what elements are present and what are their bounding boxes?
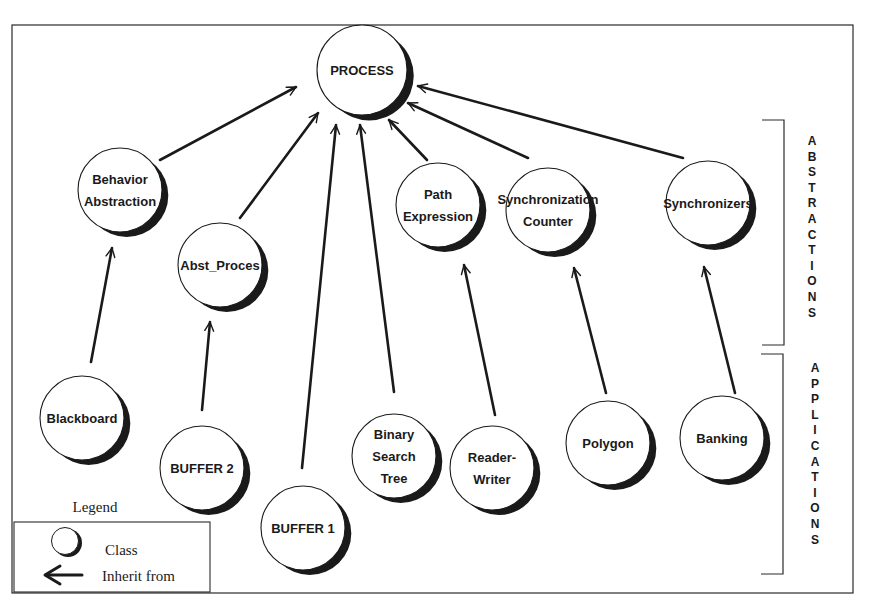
section-letter: O: [810, 501, 819, 515]
class-node-polygon: Polygon: [566, 401, 656, 490]
legend-title: Legend: [73, 499, 118, 515]
inherit-arrow-reader-writer-to-path-expression: [464, 265, 495, 415]
section-letter: B: [808, 150, 817, 164]
inherit-arrow-abst-proces-to-process: [240, 113, 318, 218]
section-letter: S: [808, 165, 816, 179]
class-label: BUFFER 2: [170, 461, 234, 476]
class-node-buffer-2: BUFFER 2: [160, 426, 250, 515]
class-node-behavior-abstraction: BehaviorAbstraction: [78, 148, 168, 237]
section-letter: T: [808, 181, 816, 195]
inherit-arrow-behavior-abstraction-to-process: [160, 87, 296, 160]
class-label: Behavior: [92, 172, 148, 187]
legend-class-label: Class: [105, 542, 138, 558]
section-label-applications: APPLICATIONS: [761, 354, 820, 574]
section-letter: S: [811, 533, 819, 547]
legend-inherit-label: Inherit from: [102, 568, 175, 584]
class-node-blackboard: Blackboard: [40, 376, 130, 465]
section-letter: O: [807, 274, 816, 288]
class-node-synchronizers: Synchronizers: [663, 161, 756, 250]
section-letter: N: [811, 517, 820, 531]
class-label: Binary: [374, 427, 415, 442]
class-node-process: PROCESS: [317, 25, 414, 120]
section-letter: N: [808, 290, 817, 304]
section-letter: I: [813, 423, 816, 437]
class-node-buffer-1: BUFFER 1: [261, 486, 351, 575]
class-label: Writer: [473, 472, 510, 487]
class-label: Banking: [696, 431, 747, 446]
diagram-frame: [12, 25, 853, 593]
legend: LegendClassInherit from: [14, 499, 210, 592]
section-letter: P: [811, 377, 819, 391]
class-nodes: PROCESSBehaviorAbstractionAbst_ProcesPat…: [40, 25, 770, 575]
class-node-binary-search-tree: BinarySearchTree: [352, 414, 442, 503]
class-node-synchronization-counter: SynchronizationCounter: [497, 168, 598, 257]
class-circle-icon: [506, 168, 590, 252]
class-node-path-expression: PathExpression: [396, 163, 486, 252]
class-label: Blackboard: [47, 411, 118, 426]
class-node-reader-writer: Reader-Writer: [450, 426, 540, 515]
class-label: Reader-: [468, 450, 516, 465]
legend-class-icon: [52, 528, 83, 558]
legend-inherit-arrow-icon: [45, 566, 82, 584]
section-letter: L: [811, 408, 818, 422]
section-letter: A: [808, 134, 817, 148]
class-label: Expression: [403, 209, 473, 224]
class-label: Abst_Proces: [180, 258, 259, 273]
section-letter: I: [813, 486, 816, 500]
class-label: PROCESS: [330, 63, 394, 78]
inherit-arrow-buffer-1-to-process: [302, 125, 336, 468]
class-label: Abstraction: [84, 194, 156, 209]
class-label: Path: [424, 187, 452, 202]
inherit-arrow-polygon-to-synchronization-counter: [574, 268, 606, 393]
class-label: Synchronization: [497, 192, 598, 207]
class-circle-icon: [450, 426, 534, 510]
bracket-abstractions: [762, 120, 784, 345]
section-letter: T: [808, 243, 816, 257]
class-circle-icon: [78, 148, 162, 232]
class-node-abst-proces: Abst_Proces: [178, 223, 268, 312]
section-letter: A: [808, 212, 817, 226]
inherit-arrow-path-expression-to-process: [389, 120, 427, 160]
section-letter: A: [811, 455, 820, 469]
inherit-arrow-buffer-2-to-abst-proces: [202, 322, 210, 410]
section-letter: I: [810, 259, 813, 273]
inherit-arrow-binary-search-tree-to-process: [360, 125, 394, 392]
section-letter: C: [808, 228, 817, 242]
inherit-arrow-synchronizers-to-process: [418, 86, 683, 158]
class-label: BUFFER 1: [271, 521, 335, 536]
section-letter: C: [811, 439, 820, 453]
section-letter: S: [808, 306, 816, 320]
class-node-banking: Banking: [680, 396, 770, 485]
section-labels: ABSTRACTIONSAPPLICATIONS: [761, 120, 820, 574]
class-label: Counter: [523, 214, 573, 229]
section-letter: P: [811, 392, 819, 406]
class-circle-icon: [396, 163, 480, 247]
class-label: Search: [372, 449, 415, 464]
class-label: Synchronizers: [663, 196, 753, 211]
section-letter: T: [811, 470, 819, 484]
inherit-arrow-banking-to-synchronizers: [704, 267, 735, 393]
inherit-arrow-blackboard-to-behavior-abstraction: [91, 248, 112, 362]
section-letter: R: [808, 196, 817, 210]
class-hierarchy-diagram: PROCESSBehaviorAbstractionAbst_ProcesPat…: [0, 0, 876, 613]
class-label: Tree: [381, 471, 408, 486]
section-letter: A: [811, 361, 820, 375]
section-label-abstractions: ABSTRACTIONS: [762, 120, 817, 345]
class-label: Polygon: [582, 436, 633, 451]
